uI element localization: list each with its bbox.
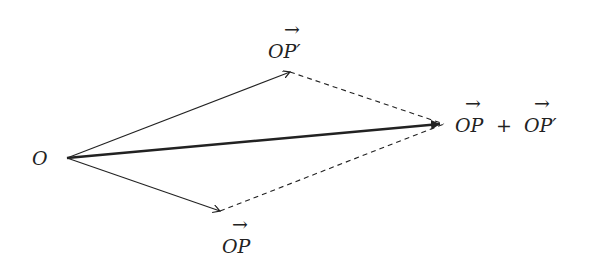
- sum-label: OP → + OP′ →: [455, 92, 557, 136]
- vector-arrow-icon: →: [284, 18, 300, 40]
- svg-text:+: +: [496, 114, 512, 136]
- op-label: OP →: [222, 213, 252, 257]
- origin-label: O: [32, 147, 48, 169]
- svg-text:OP′: OP′: [268, 40, 301, 62]
- op-prime-label: OP′ →: [268, 18, 301, 62]
- vector-op-arrow: [67, 158, 220, 211]
- diagram-canvas: O OP′ → OP → OP → + OP′ →: [0, 0, 600, 274]
- dashed-edge-pprime-to-sum: [290, 72, 444, 124]
- vector-arrow-icon: →: [232, 213, 248, 235]
- vector-arrow-icon: →: [465, 92, 481, 114]
- vector-arrow-icon: →: [534, 92, 550, 114]
- svg-text:OP: OP: [455, 114, 485, 136]
- svg-text:OP: OP: [222, 235, 252, 257]
- svg-text:OP′: OP′: [524, 114, 557, 136]
- dashed-edge-p-to-sum: [220, 124, 444, 211]
- vector-op-prime-arrow: [67, 72, 290, 158]
- vector-sum-arrow: [67, 124, 440, 158]
- vector-addition-diagram: O OP′ → OP → OP → + OP′ →: [0, 0, 600, 274]
